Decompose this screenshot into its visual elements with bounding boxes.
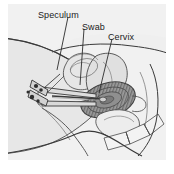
medical-illustration: Speculum Swab Cervix	[0, 0, 174, 174]
label-speculum: Speculum	[38, 10, 79, 20]
illustration-frame: Speculum Swab Cervix	[8, 4, 166, 160]
label-swab: Swab	[82, 22, 105, 32]
label-cervix: Cervix	[108, 32, 134, 42]
